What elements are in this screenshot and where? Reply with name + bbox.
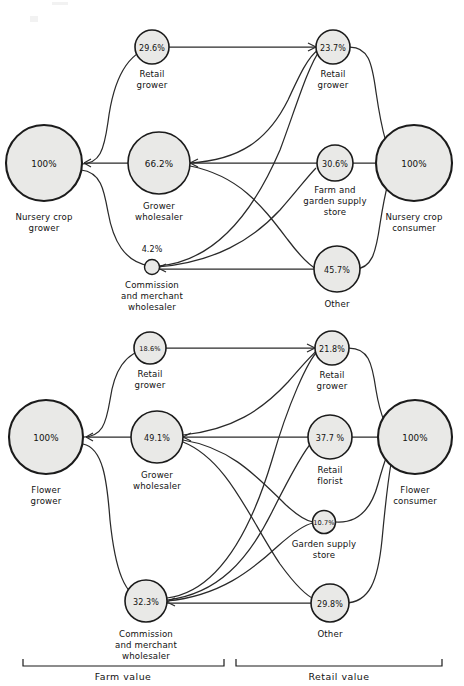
node-retail-grower-farm-nursery[interactable]: 29.6% Retail grower bbox=[135, 30, 169, 90]
node-nursery-crop-grower[interactable]: 100% Nursery crop grower bbox=[6, 125, 82, 233]
node-label-line2: garden supply bbox=[303, 196, 366, 206]
node-label-line2: florist bbox=[317, 476, 343, 486]
node-retail-florist[interactable]: 37.7 % Retail florist bbox=[308, 415, 352, 486]
node-label-line2: grower bbox=[135, 380, 166, 390]
link-wholesaler-to-gardensupply bbox=[183, 440, 313, 522]
link-wholesaler-to-retailgrower2 bbox=[190, 50, 318, 163]
node-label-line2: grower bbox=[29, 223, 60, 233]
node-value: 100% bbox=[402, 433, 428, 443]
node-label-line1: Garden supply bbox=[292, 539, 357, 549]
node-farm-garden-supply-store[interactable]: 30.6% Farm and garden supply store bbox=[303, 145, 366, 217]
node-label-line3: store bbox=[324, 207, 347, 217]
diagram-nursery-crop: 100% Nursery crop grower 29.6% Retail gr… bbox=[6, 30, 452, 312]
node-label-line1: Nursery crop bbox=[385, 212, 442, 222]
link-wholesaler-to-retailgrower2 bbox=[183, 350, 318, 435]
node-retail-grower-retail-nursery[interactable]: 23.7% Retail grower bbox=[316, 30, 350, 90]
node-label-line1: Retail bbox=[320, 69, 345, 79]
node-retail-grower-farm-flower[interactable]: 18.6% Retail grower bbox=[134, 332, 166, 390]
node-label-line1: Other bbox=[317, 629, 342, 639]
node-label-line1: Other bbox=[324, 299, 349, 309]
node-label-line2: consumer bbox=[392, 223, 436, 233]
node-value: 30.6% bbox=[322, 160, 348, 169]
node-value: 18.6% bbox=[139, 345, 160, 353]
node-label-line1: Commission bbox=[125, 280, 179, 290]
node-value: 10.7% bbox=[313, 519, 334, 527]
link-source-to-commission bbox=[83, 444, 146, 601]
figure-canvas: 100% Nursery crop grower 29.6% Retail gr… bbox=[0, 0, 464, 686]
node-other-nursery[interactable]: 45.7% Other bbox=[314, 246, 360, 309]
node-label-line1: Retail bbox=[317, 465, 342, 475]
marketing-channel-flow-diagram: 100% Nursery crop grower 29.6% Retail gr… bbox=[0, 0, 464, 686]
node-value: 45.7% bbox=[324, 266, 350, 275]
node-label-line2: wholesaler bbox=[133, 481, 181, 491]
node-value: 100% bbox=[33, 433, 59, 443]
node-label-line1: Flower bbox=[31, 485, 61, 495]
node-value: 49.1% bbox=[144, 434, 170, 443]
node-label-line2: grower bbox=[317, 381, 348, 391]
node-label-line2: grower bbox=[318, 80, 349, 90]
bracket-retail-value bbox=[236, 659, 442, 666]
diagram-flower: 100% Flower grower 18.6% Retail grower 4… bbox=[9, 331, 452, 661]
node-grower-wholesaler-flower[interactable]: 49.1% Grower wholesaler bbox=[131, 411, 183, 491]
link-other-to-sink bbox=[343, 441, 397, 603]
link-commission-to-retailgrower2 bbox=[167, 351, 318, 598]
node-label-line1: Commission bbox=[119, 629, 173, 639]
node-label-line1: Flower bbox=[400, 485, 430, 495]
node-value: 100% bbox=[31, 159, 57, 169]
node-value: 23.7% bbox=[320, 44, 346, 53]
node-label-line2: and merchant bbox=[115, 640, 177, 650]
node-label-line1: Nursery crop bbox=[15, 212, 72, 222]
node-value: 29.6% bbox=[139, 44, 165, 53]
node-flower-grower[interactable]: 100% Flower grower bbox=[9, 400, 83, 506]
bracket-label-farm-value: Farm value bbox=[95, 671, 152, 682]
node-grower-wholesaler-nursery[interactable]: 66.2% Grower wholesaler bbox=[128, 132, 190, 222]
scan-artifact bbox=[52, 2, 68, 5]
node-label-line2: consumer bbox=[393, 496, 437, 506]
node-label-line2: grower bbox=[137, 80, 168, 90]
node-value: 66.2% bbox=[145, 159, 173, 169]
node-value: 100% bbox=[401, 159, 427, 169]
node-label-line3: wholesaler bbox=[128, 302, 176, 312]
node-other-flower[interactable]: 29.8% Other bbox=[311, 584, 349, 639]
node-value: 32.3% bbox=[133, 598, 159, 607]
node-label-line1: Grower bbox=[141, 470, 173, 480]
node-label-line1: Retail bbox=[319, 370, 344, 380]
node-retail-grower-retail-flower[interactable]: 21.8% Retail grower bbox=[315, 331, 349, 391]
node-label-line1: Retail bbox=[137, 369, 162, 379]
node-value: 21.8% bbox=[319, 345, 345, 354]
node-label-line1: Farm and bbox=[314, 185, 355, 195]
value-brackets: Farm value Retail value bbox=[23, 659, 442, 682]
node-garden-supply-store[interactable]: 10.7% Garden supply store bbox=[292, 511, 357, 561]
node-label-line2: store bbox=[313, 550, 336, 560]
bracket-label-retail-value: Retail value bbox=[308, 671, 369, 682]
node-value: 29.8% bbox=[317, 600, 343, 609]
node-flower-consumer[interactable]: 100% Flower consumer bbox=[378, 400, 452, 506]
scan-artifact bbox=[30, 16, 38, 22]
node-label-line1: Grower bbox=[143, 201, 175, 211]
node-commission-wholesaler-flower[interactable]: 32.3% Commission and merchant wholesaler bbox=[115, 580, 177, 661]
node-label-line2: and merchant bbox=[121, 291, 183, 301]
node-label-line1: Retail bbox=[139, 69, 164, 79]
link-wholesaler-to-other bbox=[190, 166, 318, 270]
node-commission-wholesaler-nursery[interactable]: 4.2% Commission and merchant wholesaler bbox=[121, 245, 183, 313]
node-value: 37.7 % bbox=[316, 434, 345, 443]
node-label-line2: grower bbox=[31, 496, 62, 506]
node-label-line2: wholesaler bbox=[135, 212, 183, 222]
node-label-line3: wholesaler bbox=[122, 651, 170, 661]
node-value: 4.2% bbox=[142, 245, 163, 254]
node-nursery-crop-consumer[interactable]: 100% Nursery crop consumer bbox=[376, 125, 452, 233]
